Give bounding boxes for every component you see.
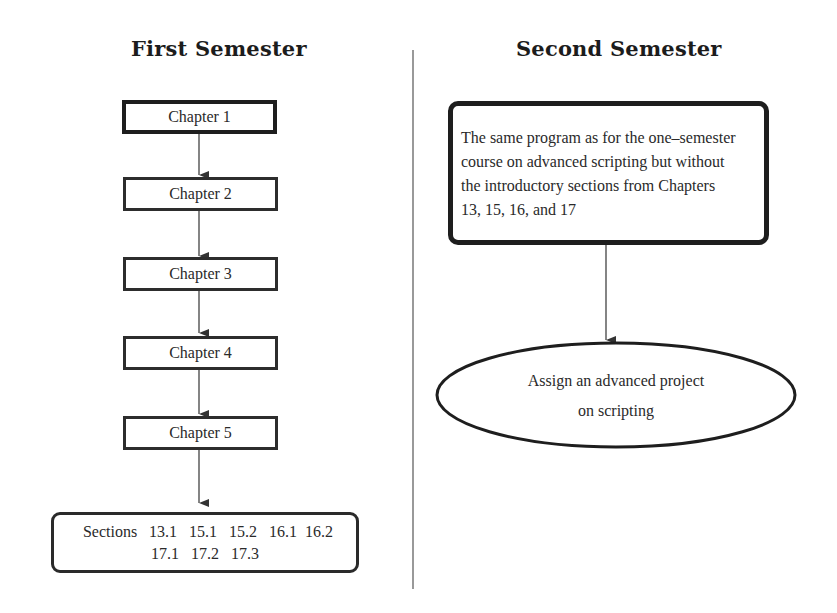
chapter-3-box: Chapter 3: [123, 257, 278, 291]
program-line-3: the introductory sections from Chapters: [461, 174, 715, 198]
sections-line-1: Sections 13.1 15.1 15.2 16.1 16.2: [83, 521, 333, 543]
chapter-2-box: Chapter 2: [123, 177, 278, 211]
chapter-5-box: Chapter 5: [123, 416, 278, 450]
chapter-5-label: Chapter 5: [169, 424, 232, 442]
first-semester-title: First Semester: [131, 36, 307, 61]
program-description-box: The same program as for the one–semester…: [448, 101, 769, 245]
chapter-2-label: Chapter 2: [169, 185, 232, 203]
sections-box: Sections 13.1 15.1 15.2 16.1 16.2 17.1 1…: [51, 512, 359, 573]
chapter-4-box: Chapter 4: [123, 336, 278, 370]
program-line-2: course on advanced scripting but without: [461, 150, 725, 174]
chapter-1-box: Chapter 1: [122, 100, 277, 134]
program-line-1: The same program as for the one–semester: [461, 126, 736, 150]
project-ellipse: Assign an advanced project on scripting: [437, 366, 795, 426]
second-semester-title: Second Semester: [516, 36, 722, 61]
project-line-1: Assign an advanced project: [437, 366, 795, 396]
chapter-3-label: Chapter 3: [169, 265, 232, 283]
sections-line-2: 17.1 17.2 17.3: [151, 543, 259, 565]
chapter-4-label: Chapter 4: [169, 344, 232, 362]
program-line-4: 13, 15, 16, and 17: [461, 198, 576, 222]
chapter-1-label: Chapter 1: [168, 108, 231, 126]
project-line-2: on scripting: [437, 396, 795, 426]
